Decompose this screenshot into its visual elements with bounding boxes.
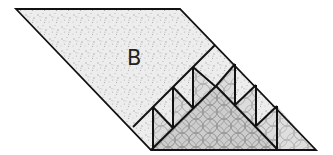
dissection-diagram: B xyxy=(0,0,333,155)
region-b-label: B xyxy=(127,46,141,70)
parallelogram-dissection-figure: B xyxy=(0,0,333,155)
